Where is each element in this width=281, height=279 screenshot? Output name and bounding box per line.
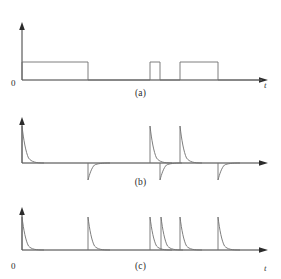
spike-b-pos-2 [150,126,172,163]
spike-c-5 [180,217,202,250]
spike-c-6 [218,217,240,250]
spike-c-1 [22,217,44,250]
caption-a: (a) [0,88,281,98]
caption-b: (b) [0,177,281,187]
x-axis-arrowhead-b [259,160,268,165]
spike-c-2 [88,217,110,250]
y-axis-arrowhead-c [19,207,25,215]
caption-c: (c) [0,261,281,271]
x-axis-arrowhead-c [259,247,268,252]
origin-label-a: 0 [11,78,16,88]
y-axis-arrowhead-a [19,22,25,30]
y-axis-arrowhead-b [19,117,25,125]
waveform-a-pulse-train [22,62,262,80]
spike-b-pos-3 [180,126,202,163]
figure-container: 0 t (a) 0 t (b) [0,0,281,279]
spike-b-pos-1 [22,126,44,163]
